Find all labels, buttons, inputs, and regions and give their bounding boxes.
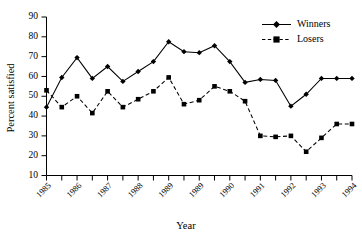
x-tick-label: 1994 <box>339 180 359 200</box>
square-marker-icon <box>273 36 279 42</box>
y-tick-label: 80 <box>29 31 39 41</box>
data-point-winners <box>181 49 186 54</box>
y-tick-label: 40 <box>29 110 39 120</box>
data-point-losers <box>166 75 171 80</box>
data-point-losers <box>228 89 233 94</box>
x-axis-title: Year <box>176 220 196 231</box>
y-axis-title: Percent satisfied <box>5 63 16 133</box>
line-chart: Percent satisfied Year 10203040506070809… <box>0 0 362 235</box>
data-point-losers <box>59 105 64 110</box>
data-point-losers <box>273 135 278 140</box>
data-point-losers <box>243 99 248 104</box>
data-point-winners <box>334 76 339 81</box>
data-point-winners <box>273 78 278 83</box>
y-axis: 102030405060708090 <box>29 11 47 180</box>
data-point-losers <box>44 88 49 93</box>
data-point-winners <box>44 104 49 109</box>
data-point-losers <box>182 102 187 107</box>
diamond-marker-icon <box>273 21 280 28</box>
data-point-losers <box>105 89 110 94</box>
legend-item-losers: Losers <box>262 33 324 44</box>
series-losers <box>44 75 354 154</box>
y-tick-label: 10 <box>29 170 39 180</box>
y-tick-label: 60 <box>29 71 39 81</box>
y-tick-label: 70 <box>29 51 39 61</box>
data-point-losers <box>90 111 95 116</box>
data-point-losers <box>197 98 202 103</box>
x-tick-label: 1992 <box>278 180 297 199</box>
x-tick-label: 1990 <box>217 180 236 199</box>
legend-label-winners: Winners <box>297 18 331 29</box>
y-tick-label: 20 <box>29 150 39 160</box>
x-tick-label: 1986 <box>64 180 83 199</box>
data-point-winners <box>349 76 354 81</box>
legend-label-losers: Losers <box>297 33 324 44</box>
y-tick-label: 50 <box>29 90 39 100</box>
data-point-winners <box>135 69 140 74</box>
x-axis: 1985198619871988198919891990199119921993… <box>34 176 359 200</box>
data-point-losers <box>319 136 324 141</box>
x-tick-label: 1993 <box>309 180 328 199</box>
chart-container: Percent satisfied Year 10203040506070809… <box>0 0 362 235</box>
x-tick-label: 1985 <box>34 180 53 199</box>
data-point-losers <box>350 122 355 127</box>
legend-item-winners: Winners <box>262 18 331 29</box>
data-point-losers <box>151 89 156 94</box>
data-point-losers <box>334 122 339 127</box>
x-tick-label: 1989 <box>187 180 206 199</box>
chart-legend: Winners Losers <box>262 18 331 44</box>
x-tick-label: 1987 <box>95 180 114 199</box>
data-point-losers <box>136 97 141 102</box>
data-point-losers <box>75 94 80 99</box>
y-tick-label: 30 <box>29 130 39 140</box>
x-tick-label: 1988 <box>125 180 144 199</box>
data-point-losers <box>121 105 126 110</box>
data-point-losers <box>258 134 263 139</box>
data-point-losers <box>304 149 309 154</box>
y-tick-label: 90 <box>29 11 39 21</box>
data-point-winners <box>258 77 263 82</box>
x-tick-label: 1991 <box>248 180 267 199</box>
data-point-losers <box>212 84 217 89</box>
x-tick-label: 1989 <box>156 180 175 199</box>
data-point-losers <box>289 134 294 139</box>
data-point-winners <box>197 50 202 55</box>
